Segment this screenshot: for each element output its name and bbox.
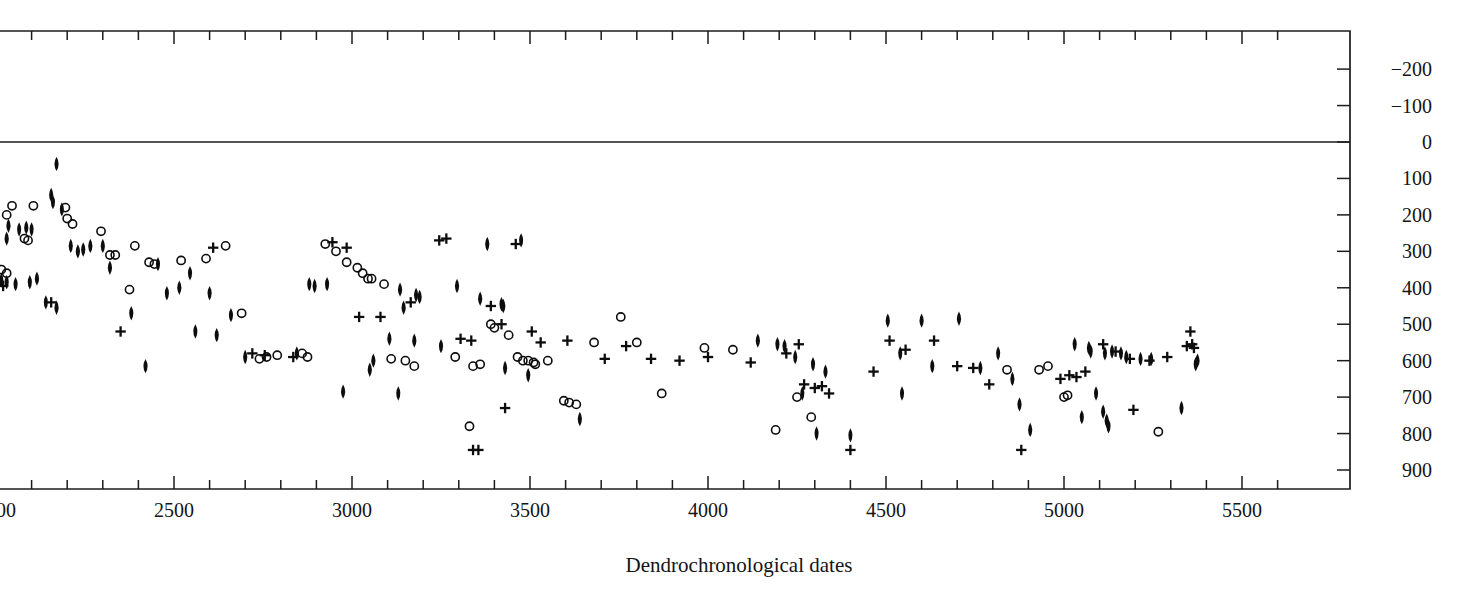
y-tick-label: 300: [1402, 240, 1432, 262]
marker-diamond: [108, 261, 112, 275]
marker-diamond: [996, 346, 1000, 360]
marker-diamond: [900, 386, 904, 400]
marker-diamond: [418, 290, 422, 304]
data-point-markers: [0, 157, 1200, 455]
x-axis-title: Dendrochronological dates: [626, 553, 853, 577]
marker-diamond: [455, 279, 459, 293]
marker-circle: [202, 255, 210, 263]
marker-diamond: [88, 239, 92, 253]
marker-diamond: [208, 286, 212, 300]
marker-circle: [68, 220, 76, 228]
marker-circle: [145, 258, 153, 266]
dendrochronology-scatter-chart: 20002500300035004000450050005500 −200−10…: [0, 0, 1467, 609]
marker-circle: [729, 346, 737, 354]
x-tick-label: 5500: [1222, 499, 1262, 521]
marker-diamond: [793, 350, 797, 364]
marker-circle: [97, 227, 105, 235]
marker-diamond: [478, 292, 482, 306]
marker-circle: [380, 280, 388, 288]
marker-diamond: [341, 384, 345, 398]
x-axis-ticks: [32, 31, 1278, 489]
marker-diamond: [775, 337, 779, 351]
marker-diamond: [1138, 352, 1142, 366]
x-tick-label: 4500: [866, 499, 906, 521]
marker-diamond: [1010, 372, 1014, 386]
marker-circle: [343, 258, 351, 266]
marker-diamond: [978, 361, 982, 375]
marker-diamond: [503, 361, 507, 375]
marker-circle: [700, 344, 708, 352]
marker-diamond: [28, 275, 32, 289]
marker-circle: [1154, 428, 1162, 436]
marker-diamond: [6, 219, 10, 233]
marker-diamond: [24, 220, 28, 234]
marker-circle: [1044, 362, 1052, 370]
x-tick-label: 3500: [510, 499, 550, 521]
marker-diamond: [485, 237, 489, 251]
marker-circle: [451, 353, 459, 361]
marker-circle: [633, 338, 641, 346]
marker-diamond: [368, 363, 372, 377]
marker-diamond: [412, 333, 416, 347]
marker-diamond: [811, 357, 815, 371]
marker-diamond: [229, 308, 233, 322]
marker-circle: [658, 389, 666, 397]
y-tick-label: 500: [1402, 313, 1432, 335]
marker-diamond: [898, 346, 902, 360]
y-tick-label: 700: [1402, 386, 1432, 408]
marker-diamond: [1017, 397, 1021, 411]
x-tick-label: 5000: [1044, 499, 1084, 521]
marker-diamond: [371, 353, 375, 367]
marker-diamond: [69, 239, 73, 253]
marker-diamond: [756, 333, 760, 347]
marker-circle: [177, 256, 185, 264]
marker-circle: [1035, 366, 1043, 374]
marker-diamond: [81, 242, 85, 256]
x-tick-label: 3000: [332, 499, 372, 521]
marker-diamond: [848, 428, 852, 442]
marker-circle: [238, 309, 246, 317]
marker-diamond: [215, 328, 219, 342]
marker-diamond: [30, 222, 34, 236]
marker-diamond: [1094, 386, 1098, 400]
marker-diamond: [519, 233, 523, 247]
marker-diamond: [307, 277, 311, 291]
series-open-circle: [0, 202, 1162, 436]
marker-diamond: [1028, 423, 1032, 437]
marker-diamond: [930, 359, 934, 373]
y-axis-tick-labels: −200−1000100200300400500600700800900: [1391, 58, 1432, 481]
marker-diamond: [823, 364, 827, 378]
marker-diamond: [957, 312, 961, 326]
y-tick-label: 600: [1402, 350, 1432, 372]
y-tick-label: −100: [1391, 95, 1432, 117]
x-tick-label: 2000: [0, 499, 16, 521]
marker-diamond: [35, 271, 39, 285]
marker-circle: [410, 362, 418, 370]
marker-diamond: [188, 266, 192, 280]
y-tick-label: 200: [1402, 204, 1432, 226]
marker-diamond: [76, 244, 80, 258]
marker-diamond: [387, 332, 391, 346]
marker-diamond: [886, 313, 890, 327]
marker-diamond: [1073, 337, 1077, 351]
marker-circle: [332, 247, 340, 255]
marker-diamond: [17, 222, 21, 236]
marker-diamond: [814, 426, 818, 440]
y-tick-label: 400: [1402, 277, 1432, 299]
marker-circle: [465, 422, 473, 430]
marker-diamond: [920, 313, 924, 327]
y-tick-label: 800: [1402, 423, 1432, 445]
marker-diamond: [1179, 401, 1183, 415]
marker-circle: [505, 331, 513, 339]
marker-diamond: [313, 279, 317, 293]
marker-circle: [8, 202, 16, 210]
marker-diamond: [1101, 404, 1105, 418]
plot-area: 20002500300035004000450050005500 −200−10…: [0, 0, 1467, 609]
marker-diamond: [578, 412, 582, 426]
x-tick-label: 4000: [688, 499, 728, 521]
marker-diamond: [129, 306, 133, 320]
marker-diamond: [193, 324, 197, 338]
marker-circle: [273, 351, 281, 359]
marker-diamond: [325, 277, 329, 291]
marker-circle: [111, 251, 119, 259]
